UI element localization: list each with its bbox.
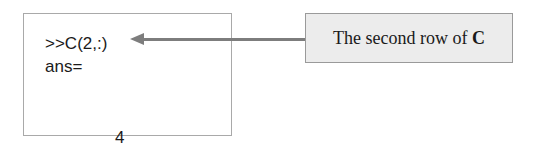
annotation-callout: The second row of C	[305, 13, 513, 63]
result-row: 4 10 -2	[24, 112, 231, 145]
arrow-left-icon	[130, 33, 144, 45]
matlab-console-box: >>C(2,:) ans= 4 10 -2	[23, 13, 232, 136]
annotation-bold-variable: C	[472, 28, 485, 49]
answer-label: ans=	[45, 58, 82, 75]
arrow-icon-shaft	[142, 38, 305, 41]
command-line: >>C(2,:)	[45, 35, 107, 52]
annotation-text: The second row of	[333, 28, 472, 49]
result-value: 4	[115, 129, 124, 145]
